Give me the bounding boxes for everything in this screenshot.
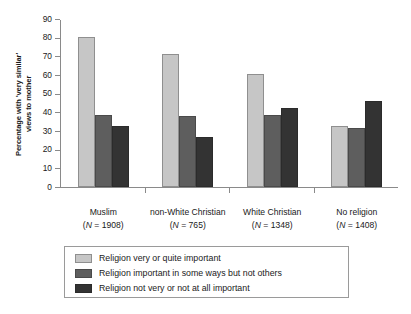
dark-gray-swatch-icon: [75, 284, 92, 293]
category-name: non-White Christian: [150, 207, 225, 217]
y-axis-tick: 10: [55, 168, 60, 169]
bar: [247, 74, 264, 187]
category-sample-size: (N = 1348): [224, 219, 321, 232]
bar: [365, 101, 382, 187]
category-name: No religion: [336, 207, 377, 217]
x-axis-tick: [145, 188, 146, 193]
y-axis-title: Percentage with 'very similar' views to …: [14, 24, 36, 184]
y-axis-tick-label: 20: [43, 144, 52, 154]
legend: Religion very or quite important Religio…: [64, 246, 349, 298]
bar: [112, 126, 129, 187]
y-axis-tick-label: 40: [43, 107, 52, 117]
category-sample-size: (N = 765): [140, 219, 237, 232]
y-axis-tick: 40: [55, 112, 60, 113]
x-axis-tick: [314, 188, 315, 193]
y-axis-tick: 70: [55, 56, 60, 57]
y-axis-tick: 30: [55, 131, 60, 132]
y-axis-tick-label: 80: [43, 32, 52, 42]
category-sample-size: (N = 1908): [55, 219, 152, 232]
x-axis-category-label: non-White Christian(N = 765): [140, 206, 237, 232]
bar: [196, 137, 213, 187]
legend-item-label: Religion not very or not at all importan…: [99, 283, 250, 294]
y-axis-tick: 80: [55, 38, 60, 39]
y-axis-tick-label: 0: [47, 182, 52, 192]
bar-group: [78, 20, 129, 187]
x-axis-category-labels: Muslim(N = 1908)non-White Christian(N = …: [61, 206, 399, 240]
bar-series-container: [61, 20, 398, 187]
y-axis-tick-label: 50: [43, 88, 52, 98]
legend-item-important-some-ways: Religion important in some ways but not …: [75, 266, 282, 280]
y-axis-tick-label: 70: [43, 51, 52, 61]
bar-group: [162, 20, 213, 187]
medium-gray-swatch-icon: [75, 269, 92, 278]
legend-item-label: Religion important in some ways but not …: [99, 268, 282, 279]
y-axis-tick-label: 10: [43, 163, 52, 173]
bar: [95, 115, 112, 187]
bar-chart-figure: Percentage with 'very similar' views to …: [0, 0, 411, 314]
legend-item-not-important: Religion not very or not at all importan…: [75, 281, 250, 295]
bar: [281, 108, 298, 187]
axes: 0102030405060708090: [60, 20, 398, 188]
y-axis-tick: 50: [55, 94, 60, 95]
x-axis-category-label: White Christian(N = 1348): [224, 206, 321, 232]
legend-item-label: Religion very or quite important: [99, 253, 221, 264]
category-name: Muslim: [90, 207, 117, 217]
x-axis-category-label: Muslim(N = 1908): [55, 206, 152, 232]
bar: [162, 54, 179, 187]
category-sample-size: (N = 1408): [309, 219, 406, 232]
y-axis-tick: 90: [55, 19, 60, 20]
x-axis-tick: [229, 188, 230, 193]
y-axis-tick-label: 90: [43, 14, 52, 24]
bar-group: [247, 20, 298, 187]
plot-area: Percentage with 'very similar' views to …: [0, 6, 411, 196]
y-axis-tick-label: 30: [43, 126, 52, 136]
x-axis-category-label: No religion(N = 1408): [309, 206, 406, 232]
y-axis-tick: 0: [55, 187, 60, 188]
bar: [331, 126, 348, 187]
light-gray-swatch-icon: [75, 254, 92, 263]
category-name: White Christian: [243, 207, 301, 217]
y-axis-tick: 60: [55, 75, 60, 76]
bar: [264, 115, 281, 187]
bar: [78, 37, 95, 187]
y-axis-tick: 20: [55, 150, 60, 151]
bar: [348, 128, 365, 187]
bar: [179, 116, 196, 187]
bar-group: [331, 20, 382, 187]
y-axis-tick-label: 60: [43, 70, 52, 80]
legend-item-very-or-quite-important: Religion very or quite important: [75, 251, 221, 265]
